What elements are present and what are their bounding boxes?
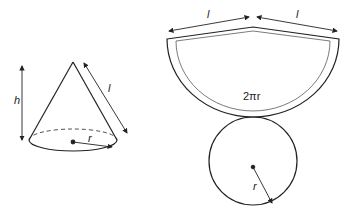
cone-height-label: h	[14, 94, 20, 106]
sector-arc-label: 2πr	[243, 90, 261, 102]
circle-radius-label: r	[253, 180, 258, 192]
sector-slant-right-label: l	[296, 8, 299, 20]
sector-net	[167, 17, 339, 117]
cone-slant-label: l	[108, 82, 111, 94]
sector-slant-left-label: l	[207, 8, 210, 20]
cone-net-diagram: h l r l l 2πr r	[0, 0, 355, 215]
cone-radius-label: r	[88, 132, 93, 144]
cone	[22, 62, 127, 151]
